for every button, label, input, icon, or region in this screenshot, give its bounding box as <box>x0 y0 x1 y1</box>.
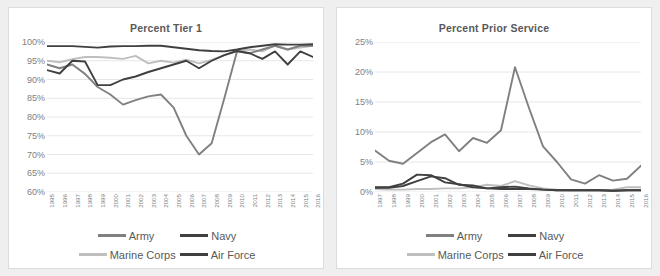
x-tick-label: 2014 <box>290 194 296 208</box>
x-tick-label: 2002 <box>138 194 144 208</box>
x-tick-label: 2014 <box>615 194 621 208</box>
chart-title-percent-prior-service: Percent Prior Service <box>337 22 651 34</box>
x-tick-label: 2006 <box>503 194 509 208</box>
x-tick-label: 2004 <box>163 194 169 208</box>
x-tick-label: 2000 <box>113 194 119 208</box>
x-tick-label: 2016 <box>315 194 321 208</box>
x-tick-label: 2011 <box>252 194 258 207</box>
x-tick-label: 2001 <box>433 194 439 208</box>
x-tick-label: 2008 <box>531 194 537 208</box>
plot-area-percent-tier-1 <box>47 42 313 192</box>
y-tick-label: 10% <box>355 127 373 137</box>
x-tick-label: 1999 <box>405 194 411 208</box>
chart-panel-percent-tier-1: Percent Tier 1 100%95%90%85%80%75%70%65%… <box>8 7 324 269</box>
legend-item-navy[interactable]: Navy <box>508 230 564 242</box>
x-tick-label: 2010 <box>239 194 245 208</box>
x-tick-label: 2011 <box>573 194 579 207</box>
legend-swatch-army <box>98 234 126 237</box>
legend-swatch-marine-corps <box>407 253 435 256</box>
legend-item-marine-corps[interactable]: Marine Corps <box>407 249 504 261</box>
x-tick-label: 1995 <box>49 194 55 208</box>
x-tick-label: 2007 <box>517 194 523 208</box>
legend-label-air-force: Air Force <box>211 249 256 261</box>
plot-area-percent-prior-service <box>375 42 641 192</box>
x-tick-label: 2012 <box>587 194 593 208</box>
legend-swatch-air-force <box>180 253 208 256</box>
y-tick-label: 85% <box>27 93 45 103</box>
plot-wrapper-percent-prior-service: 25%20%15%10%5%0% <box>337 42 653 192</box>
series-line-army <box>375 67 641 183</box>
y-tick-label: 25% <box>355 37 373 47</box>
x-tick-label: 1998 <box>391 194 397 208</box>
x-tick-label: 2010 <box>559 194 565 208</box>
x-tick-label: 2013 <box>277 194 283 208</box>
y-tick-label: 80% <box>27 112 45 122</box>
legend-item-navy[interactable]: Navy <box>180 230 236 242</box>
legend-swatch-navy <box>180 234 208 237</box>
chart-svg <box>47 42 313 192</box>
x-tick-label: 1997 <box>75 194 81 208</box>
y-tick-label: 15% <box>355 97 373 107</box>
x-tick-label: 2007 <box>201 194 207 208</box>
chart-panel-percent-prior-service: Percent Prior Service 25%20%15%10%5%0% 1… <box>336 7 652 269</box>
y-tick-label: 20% <box>355 67 373 77</box>
x-tick-label: 2013 <box>601 194 607 208</box>
legend-row: ArmyNavy <box>337 226 653 245</box>
plot-wrapper-percent-tier-1: 100%95%90%85%80%75%70%65%60% <box>9 42 325 192</box>
x-axis-labels-percent-prior-service: 1997199819992000200120022003200420052006… <box>375 194 641 226</box>
legend-swatch-navy <box>508 234 536 237</box>
x-tick-label: 2008 <box>214 194 220 208</box>
y-axis-labels-percent-prior-service: 25%20%15%10%5%0% <box>339 42 373 192</box>
legend-swatch-marine-corps <box>79 253 107 256</box>
legend-item-air-force[interactable]: Air Force <box>180 249 256 261</box>
x-tick-label: 2009 <box>545 194 551 208</box>
legend-label-army: Army <box>129 230 155 242</box>
x-tick-label: 1998 <box>87 194 93 208</box>
legend-row: ArmyNavy <box>9 226 325 245</box>
charts-page: Percent Tier 1 100%95%90%85%80%75%70%65%… <box>0 0 660 276</box>
x-tick-label: 2012 <box>265 194 271 208</box>
x-tick-label: 2003 <box>461 194 467 208</box>
legend-item-army[interactable]: Army <box>98 230 155 242</box>
x-tick-label: 2005 <box>176 194 182 208</box>
x-tick-label: 2003 <box>151 194 157 208</box>
y-tick-label: 5% <box>360 157 373 167</box>
legend-swatch-army <box>426 234 454 237</box>
legend-swatch-air-force <box>508 253 536 256</box>
x-tick-label: 2015 <box>303 194 309 208</box>
x-tick-label: 2015 <box>629 194 635 208</box>
legend-label-air-force: Air Force <box>539 249 584 261</box>
x-tick-label: 2001 <box>125 194 131 208</box>
y-tick-label: 100% <box>22 37 45 47</box>
chart-title-percent-tier-1: Percent Tier 1 <box>9 22 323 34</box>
x-tick-label: 1999 <box>100 194 106 208</box>
x-tick-label: 2004 <box>475 194 481 208</box>
legend-item-air-force[interactable]: Air Force <box>508 249 584 261</box>
y-tick-label: 90% <box>27 75 45 85</box>
legend-label-navy: Navy <box>211 230 236 242</box>
y-tick-label: 60% <box>27 187 45 197</box>
x-tick-label: 2002 <box>447 194 453 208</box>
y-tick-label: 95% <box>27 56 45 66</box>
x-tick-label: 2009 <box>227 194 233 208</box>
legend-item-army[interactable]: Army <box>426 230 483 242</box>
x-tick-label: 2005 <box>489 194 495 208</box>
y-axis-labels-percent-tier-1: 100%95%90%85%80%75%70%65%60% <box>11 42 45 192</box>
legend-row: Marine CorpsAir Force <box>337 245 653 264</box>
x-tick-label: 2006 <box>189 194 195 208</box>
legend-label-army: Army <box>457 230 483 242</box>
chart-svg <box>375 42 641 192</box>
legend-row: Marine CorpsAir Force <box>9 245 325 264</box>
y-tick-label: 75% <box>27 131 45 141</box>
x-tick-label: 2000 <box>419 194 425 208</box>
x-tick-label: 1996 <box>62 194 68 208</box>
y-tick-label: 0% <box>360 187 373 197</box>
legend-item-marine-corps[interactable]: Marine Corps <box>79 249 176 261</box>
series-line-navy <box>47 44 313 51</box>
legend-label-navy: Navy <box>539 230 564 242</box>
x-axis-labels-percent-tier-1: 1995199619971998199920002001200220032004… <box>47 194 313 226</box>
legend-label-marine-corps: Marine Corps <box>110 249 176 261</box>
legend-label-marine-corps: Marine Corps <box>438 249 504 261</box>
x-tick-label: 2016 <box>643 194 649 208</box>
legend-percent-tier-1: ArmyNavyMarine CorpsAir Force <box>9 226 325 264</box>
